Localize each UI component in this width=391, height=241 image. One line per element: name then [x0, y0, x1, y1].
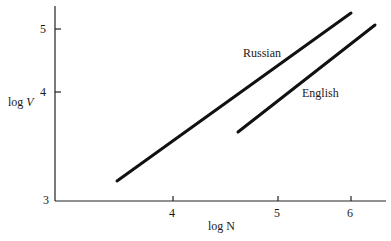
- english-label: English: [302, 87, 339, 99]
- x-tick-6: 6: [347, 207, 353, 219]
- chart-canvas: [0, 0, 391, 241]
- y-tick-3: 3: [43, 194, 49, 206]
- y-axis-label: log V: [8, 96, 34, 108]
- x-tick-4: 4: [169, 207, 175, 219]
- y-axis-label-var: V: [26, 95, 33, 109]
- y-tick-4: 4: [40, 86, 46, 98]
- x-axis: [55, 196, 386, 201]
- x-tick-5: 5: [274, 207, 280, 219]
- y-axis: [55, 6, 61, 201]
- russian-label: Russian: [243, 47, 281, 59]
- y-axis-label-text: log: [8, 95, 26, 109]
- y-tick-5: 5: [40, 23, 46, 35]
- x-axis-label: log N: [208, 220, 235, 232]
